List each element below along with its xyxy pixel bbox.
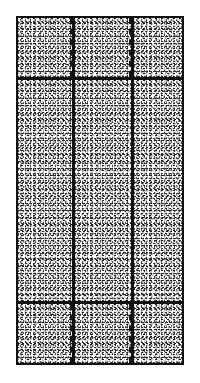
column-divider-right (131, 16, 134, 365)
cell-bottom-left (18, 304, 72, 363)
dashed-line-top-right (129, 18, 131, 77)
cell-top-center (75, 18, 131, 77)
column-divider-left (72, 16, 75, 365)
cell-bottom-center (75, 304, 131, 363)
cell-middle-center (75, 80, 131, 301)
cell-middle-right (134, 80, 182, 301)
dashed-line-bottom-right (129, 304, 131, 363)
row-divider-bottom (16, 301, 184, 304)
dashed-line-top-left (70, 18, 72, 77)
cell-top-right (134, 18, 182, 77)
technical-drawing-figure (0, 0, 200, 383)
dashed-line-bottom-left (70, 304, 72, 363)
row-divider-top (16, 77, 184, 80)
cell-bottom-right (134, 304, 182, 363)
cell-top-left (18, 18, 72, 77)
cell-middle-left (18, 80, 72, 301)
